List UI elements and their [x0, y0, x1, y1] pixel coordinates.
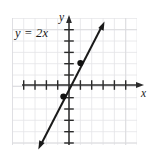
y-axis-label: y [59, 12, 64, 24]
x-axis [22, 80, 144, 90]
coordinate-plane-svg [0, 0, 153, 159]
x-axis-label: x [141, 88, 146, 100]
equation-label: y = 2x [15, 27, 48, 40]
y-axis [64, 15, 74, 145]
graph-figure: y = 2x y x [0, 0, 153, 159]
